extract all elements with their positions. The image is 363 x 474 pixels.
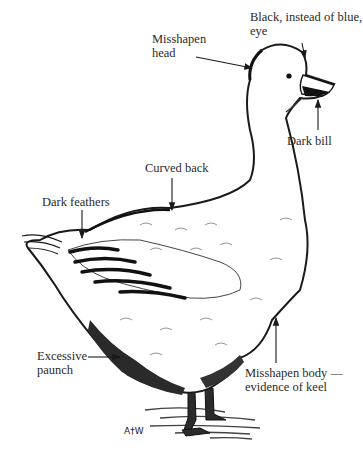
label-bill: Dark bill <box>287 134 332 148</box>
label-feathers: Dark feathers <box>42 195 110 209</box>
label-head: Misshapen head <box>152 32 206 60</box>
label-eye: Black, instead of blue, eye <box>250 10 362 38</box>
label-paunch: Excessive paunch <box>37 349 87 377</box>
label-body: Misshapen body — evidence of keel <box>245 366 343 394</box>
eye-icon <box>286 73 291 78</box>
goose-illustration: A†W <box>0 0 363 474</box>
legs <box>182 388 226 436</box>
goose-diagram: A†W Black, instead of blue, eye Misshape… <box>0 0 363 474</box>
artist-signature: A†W <box>124 426 144 436</box>
label-back: Curved back <box>145 161 209 175</box>
